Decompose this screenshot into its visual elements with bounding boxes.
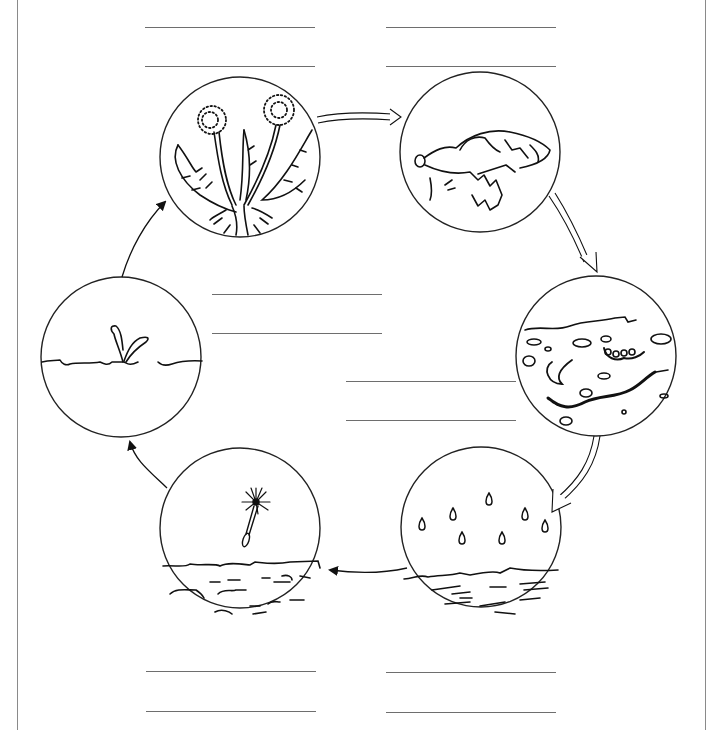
stage-4-rain (401, 447, 561, 614)
stage-3-decomposition (516, 276, 676, 436)
arrow-4-to-5 (330, 568, 407, 572)
life-cycle-diagram (0, 0, 716, 730)
arrow-5-to-6 (130, 442, 167, 488)
answer-line-stage-1-a[interactable] (145, 27, 315, 28)
answer-line-stage-6-a[interactable] (212, 294, 382, 295)
stage-1-mature-dandelion (160, 77, 320, 237)
arrow-6-to-1 (122, 202, 165, 277)
answer-line-stage-3-a[interactable] (346, 381, 516, 382)
arrow-1-to-2 (317, 109, 401, 125)
answer-line-stage-1-b[interactable] (145, 66, 315, 67)
answer-line-stage-5-b[interactable] (146, 711, 316, 712)
arrow-2-to-3 (549, 193, 597, 272)
answer-line-stage-3-b[interactable] (346, 420, 516, 421)
answer-line-stage-4-b[interactable] (386, 712, 556, 713)
answer-line-stage-2-a[interactable] (386, 27, 556, 28)
answer-line-stage-6-b[interactable] (212, 333, 382, 334)
arrow-3-to-4 (552, 436, 600, 512)
answer-line-stage-5-a[interactable] (146, 671, 316, 672)
stage-6-sprouting (41, 277, 202, 437)
stage-5-seed-landing (160, 448, 320, 614)
stage-2-dying-plant (400, 72, 560, 232)
answer-line-stage-4-a[interactable] (386, 672, 556, 673)
answer-line-stage-2-b[interactable] (386, 66, 556, 67)
